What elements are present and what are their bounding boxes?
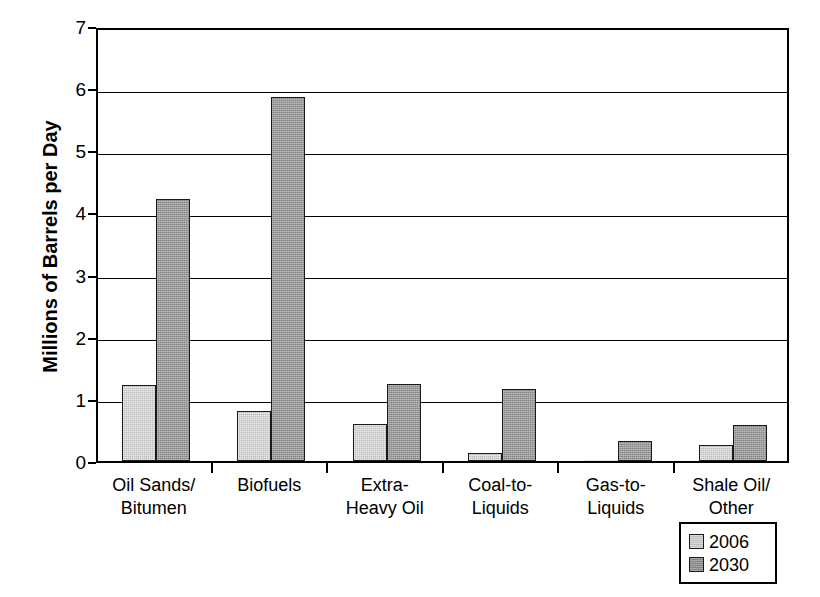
x-axis-tick-mark [673, 463, 675, 473]
bar-2030-cat5 [733, 425, 767, 461]
x-axis-category-label: Oil Sands/ Bitumen [96, 474, 212, 520]
bar-chart: Millions of Barrels per Day 76543210 Oil… [0, 0, 820, 597]
gridline [98, 340, 787, 341]
bar-2006-cat3 [468, 453, 502, 461]
y-axis-tick-label: 0 [46, 453, 86, 472]
bar-2030-cat2 [387, 384, 421, 461]
chart-legend: 2006 2030 [679, 522, 777, 584]
x-axis-category-label: Gas-to- Liquids [558, 474, 674, 520]
legend-label-2030: 2030 [709, 556, 749, 574]
y-axis-tick-label: 2 [46, 329, 86, 348]
bar-2006-cat2 [353, 424, 387, 461]
y-axis-tick-mark [88, 462, 96, 464]
legend-item-2006: 2006 [689, 530, 767, 553]
x-axis-tick-mark [442, 463, 444, 473]
x-axis-category-label: Coal-to- Liquids [443, 474, 559, 520]
bar-2006-cat5 [699, 445, 733, 461]
y-axis-tick-mark [88, 151, 96, 153]
legend-label-2006: 2006 [709, 533, 749, 551]
y-axis-tick-mark [88, 400, 96, 402]
legend-swatch-2030 [689, 557, 704, 572]
legend-item-2030: 2030 [689, 553, 767, 576]
y-axis-tick-mark [88, 338, 96, 340]
x-axis-tick-mark [326, 463, 328, 473]
y-axis-tick-label: 3 [46, 267, 86, 286]
bar-2030-cat1 [271, 97, 305, 461]
bar-2006-cat1 [237, 411, 271, 461]
x-axis-category-label: Biofuels [212, 474, 328, 497]
x-axis-tick-mark [557, 463, 559, 473]
y-axis-tick-label: 6 [46, 80, 86, 99]
y-axis-tick-mark [88, 276, 96, 278]
legend-swatch-2006 [689, 534, 704, 549]
y-axis-tick-label: 1 [46, 391, 86, 410]
y-axis-tick-label: 7 [46, 18, 86, 37]
gridline [98, 278, 787, 279]
bar-2006-cat4 [584, 460, 618, 461]
gridline [98, 92, 787, 93]
bar-2030-cat4 [618, 441, 652, 462]
bar-2030-cat3 [502, 389, 536, 461]
gridline [98, 402, 787, 403]
x-axis-category-label: Extra- Heavy Oil [327, 474, 443, 520]
plot-inner [98, 30, 787, 461]
gridline [98, 154, 787, 155]
y-axis-tick-mark [88, 89, 96, 91]
y-axis-tick-mark [88, 27, 96, 29]
y-axis-tick-label: 4 [46, 204, 86, 223]
x-axis-tick-mark [211, 463, 213, 473]
plot-area [96, 28, 789, 463]
x-axis-category-label: Shale Oil/ Other [674, 474, 790, 520]
bar-2030-cat0 [156, 199, 190, 461]
gridline [98, 216, 787, 217]
bar-2006-cat0 [122, 385, 156, 461]
y-axis-tick-mark [88, 213, 96, 215]
y-axis-tick-label: 5 [46, 142, 86, 161]
